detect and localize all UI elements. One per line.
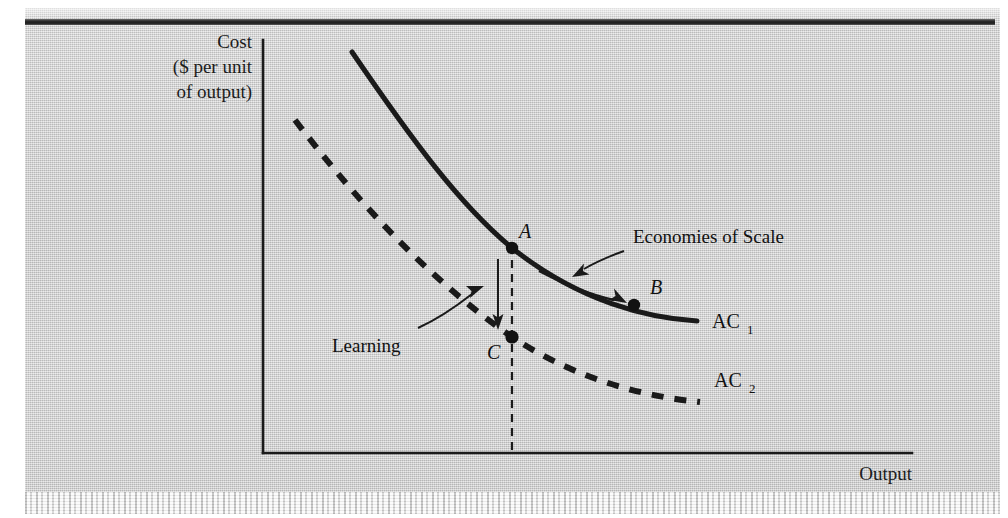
y-axis-label-line-2: ($ per unit: [173, 56, 253, 78]
point-a-marker: [506, 242, 518, 254]
ac1-label: AC 1: [712, 310, 754, 337]
ac1-curve: [352, 52, 697, 321]
x-axis-label: Output: [859, 463, 913, 484]
point-b-label: B: [650, 276, 662, 298]
point-c-marker: [505, 330, 518, 343]
ac1-label-subscript: 1: [747, 322, 754, 337]
learning-label: Learning: [332, 335, 401, 356]
economies-of-scale-leader-arrow: [572, 251, 624, 277]
y-axis-label-line-1: Cost: [217, 31, 253, 52]
ac2-label-base: AC: [714, 369, 742, 391]
point-b-marker: [628, 299, 640, 311]
ac2-label: AC 2: [714, 369, 756, 396]
economics-cost-curve-diagram: Cost ($ per unit of output) Output A B C: [0, 0, 1008, 518]
point-c-label: C: [487, 341, 501, 363]
ac2-label-subscript: 2: [749, 381, 756, 396]
y-axis-label-line-3: of output): [177, 81, 252, 103]
point-a-label: A: [517, 220, 532, 242]
y-axis-label: Cost ($ per unit of output): [173, 31, 253, 103]
learning-shift-down-arrow: [493, 259, 504, 330]
figure-page: Cost ($ per unit of output) Output A B C: [0, 0, 1008, 518]
ac1-label-base: AC: [712, 310, 740, 332]
economies-of-scale-label: Economies of Scale: [633, 226, 784, 247]
axes: [263, 40, 912, 453]
